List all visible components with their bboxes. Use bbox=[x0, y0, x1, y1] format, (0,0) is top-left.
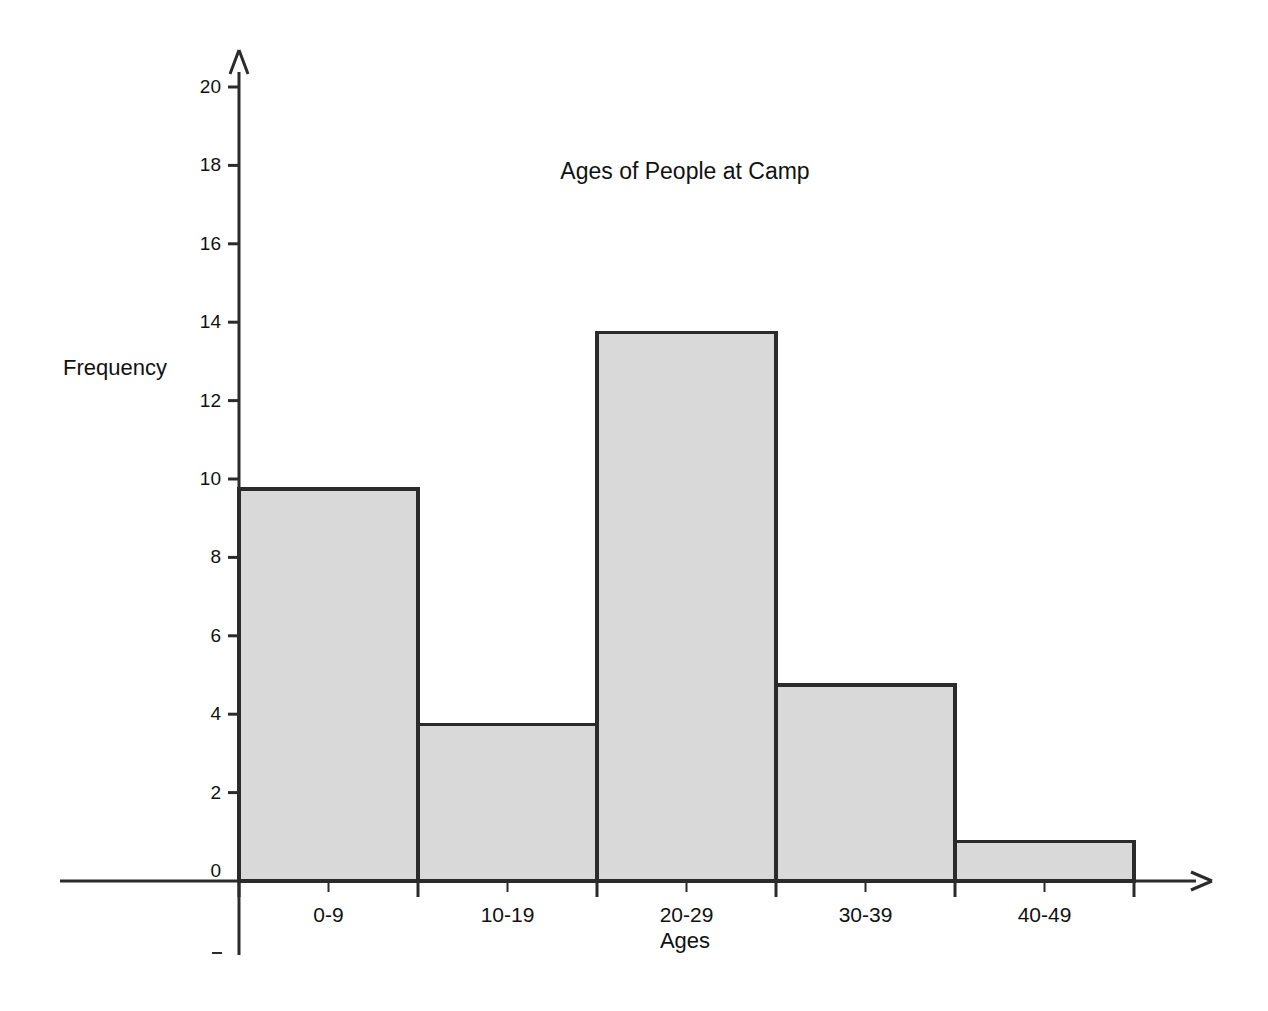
bar-40-49 bbox=[955, 842, 1134, 881]
y-tick-label-4: 4 bbox=[187, 703, 221, 725]
x-tick-label-30-39: 30-39 bbox=[839, 903, 893, 927]
y-tick-label-18: 18 bbox=[187, 154, 221, 176]
y-axis-title: Frequency bbox=[63, 355, 167, 381]
y-axis-arrow-icon bbox=[230, 50, 248, 74]
x-tick-label-0-9: 0-9 bbox=[313, 903, 343, 927]
y-tick-label-14: 14 bbox=[187, 311, 221, 333]
x-tick-label-40-49: 40-49 bbox=[1018, 903, 1072, 927]
y-tick-label-6: 6 bbox=[187, 625, 221, 647]
bar-20-29 bbox=[597, 332, 776, 881]
y-tick-label-0: 0 bbox=[187, 860, 221, 882]
y-tick-label-20: 20 bbox=[187, 76, 221, 98]
y-tick-label-8: 8 bbox=[187, 546, 221, 568]
x-tick-label-10-19: 10-19 bbox=[481, 903, 535, 927]
bar-0-9 bbox=[239, 489, 418, 881]
chart-title: Ages of People at Camp bbox=[560, 158, 809, 185]
y-tick-label-10: 10 bbox=[187, 468, 221, 490]
bar-10-19 bbox=[418, 724, 597, 881]
x-axis-title: Ages bbox=[660, 928, 710, 954]
y-tick-label-2: 2 bbox=[187, 782, 221, 804]
histogram-chart: Ages of People at Camp Frequency Ages 02… bbox=[0, 0, 1268, 1011]
y-tick-label-12: 12 bbox=[187, 390, 221, 412]
x-tick-label-20-29: 20-29 bbox=[660, 903, 714, 927]
bars-group bbox=[239, 332, 1134, 881]
bar-30-39 bbox=[776, 685, 955, 881]
y-tick-label-16: 16 bbox=[187, 233, 221, 255]
